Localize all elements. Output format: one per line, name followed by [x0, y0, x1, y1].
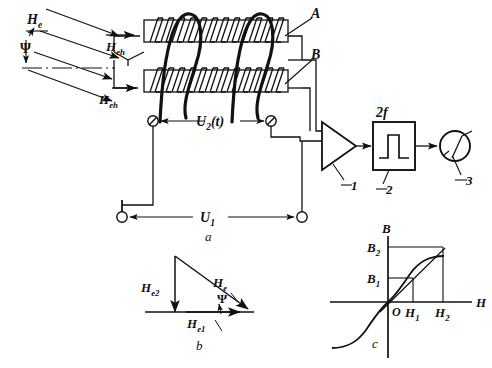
tick-label-h1: H1 [404, 305, 420, 323]
label-core-b: B [310, 47, 320, 62]
label-block-2: 2 [385, 182, 393, 197]
axis-label-h: H [475, 295, 487, 310]
meter-block [440, 131, 470, 161]
figure-root: He Ψ Heh Heh A B U2(t) U1 1 2 3 2f a He2… [0, 0, 492, 368]
label-2f: 2f [375, 105, 389, 120]
terminal-u2-right [266, 116, 276, 126]
label-psi-angle: Ψ [20, 41, 31, 56]
panel-label-b: b [196, 338, 203, 353]
label-he-external: He [26, 12, 43, 30]
panel-label-a: a [205, 229, 212, 244]
core-a-leader [285, 18, 312, 36]
label-he2: He2 [140, 280, 160, 298]
label-u1: U1 [200, 210, 215, 228]
panel-c-axes [330, 236, 472, 358]
terminal-u2-left [148, 116, 158, 126]
core-b-leader [285, 60, 312, 84]
panel-b-triangle [145, 256, 254, 312]
label-block-1: 1 [351, 178, 358, 193]
amplifier-block [322, 122, 356, 170]
label-heh-bottom: Heh [98, 92, 118, 110]
label-psi-panel-b: Ψ [217, 291, 228, 306]
axis-label-b: B [381, 221, 391, 236]
filter-block [373, 122, 415, 170]
label-block-3: 3 [465, 173, 473, 188]
primary-circuit-loop [122, 141, 302, 212]
diagram-canvas: He Ψ Heh Heh A B U2(t) U1 1 2 3 2f a He2… [0, 0, 492, 368]
terminal-u1-left [117, 212, 127, 222]
label-core-a: A [310, 6, 320, 21]
terminal-u1-right [297, 212, 307, 222]
label-he1: He1 [186, 316, 205, 334]
origin-label: O [392, 305, 401, 319]
panel-b-he1-tick [215, 320, 222, 331]
tick-label-b1: B1 [366, 271, 380, 289]
tick-label-h2: H2 [434, 305, 450, 323]
primary-left-wire [122, 200, 153, 212]
amplifier-input-wires [153, 60, 322, 200]
panel-label-c: c [372, 336, 378, 351]
amplifier-leader [333, 164, 352, 185]
label-u2: U2(t) [196, 114, 224, 132]
tick-label-b2: B2 [366, 240, 381, 258]
